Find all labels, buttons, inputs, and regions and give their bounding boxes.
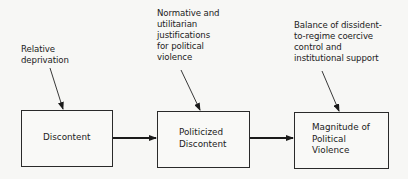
input-arrow-1 [50, 68, 63, 109]
box-magnitude-political-violence: Magnitude of Political Violence [294, 112, 389, 169]
input-arrow-3 [322, 71, 339, 111]
input-label-coercive-balance: Balance of dissident- to-regime coercive… [294, 20, 382, 64]
input-label-justifications: Normative and utilitarian justifications… [157, 8, 219, 63]
box-discontent-label: Discontent [43, 132, 90, 144]
input-arrow-2 [181, 70, 200, 110]
box-politicized-discontent: Politicized Discontent [157, 111, 250, 168]
box-politicized-discontent-label: Politicized Discontent [179, 127, 226, 150]
box-magnitude-label: Magnitude of Political Violence [312, 122, 370, 157]
box-discontent: Discontent [21, 110, 113, 167]
input-label-relative-deprivation: Relative deprivation [21, 44, 69, 66]
